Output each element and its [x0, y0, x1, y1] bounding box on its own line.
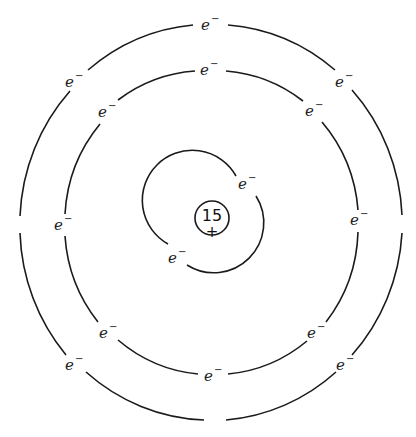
svg-text:−: −	[108, 100, 116, 111]
svg-text:e: e	[204, 367, 213, 385]
electron: e−	[65, 353, 83, 374]
nucleus: 15 +	[195, 201, 229, 241]
svg-text:−: −	[345, 70, 353, 81]
svg-text:−: −	[214, 364, 222, 375]
electron: e−	[54, 213, 72, 234]
svg-text:e: e	[307, 324, 316, 342]
svg-text:e: e	[336, 356, 345, 374]
svg-text:e: e	[200, 61, 209, 79]
electron: e−	[307, 321, 325, 342]
bohr-diagram: 15 + e− e− e− e− e− e− e− e− e− e− e− e−…	[0, 0, 416, 437]
electron: e−	[98, 100, 116, 121]
svg-text:e: e	[54, 216, 63, 234]
svg-text:e: e	[65, 356, 74, 374]
svg-text:−: −	[211, 13, 219, 24]
svg-text:e: e	[305, 102, 314, 120]
svg-text:−: −	[315, 99, 323, 110]
svg-text:−: −	[64, 213, 72, 224]
svg-text:e: e	[201, 16, 210, 34]
electron: e−	[305, 99, 323, 120]
electron: e−	[99, 321, 117, 342]
electron: e−	[65, 70, 83, 91]
svg-text:−: −	[360, 208, 368, 219]
svg-text:−: −	[346, 353, 354, 364]
nucleus-sign: +	[206, 223, 219, 241]
svg-text:−: −	[178, 246, 186, 257]
electron: e−	[335, 70, 353, 91]
svg-text:−: −	[317, 321, 325, 332]
svg-text:−: −	[210, 58, 218, 69]
svg-text:e: e	[350, 211, 359, 229]
svg-text:e: e	[65, 73, 74, 91]
electron: e−	[168, 246, 186, 267]
electron: e−	[204, 364, 222, 385]
electron: e−	[336, 353, 354, 374]
electron: e−	[200, 58, 218, 79]
svg-text:e: e	[98, 103, 107, 121]
svg-text:e: e	[99, 324, 108, 342]
svg-text:−: −	[109, 321, 117, 332]
electron: e−	[238, 172, 256, 193]
electron: e−	[201, 13, 219, 34]
electron: e−	[350, 208, 368, 229]
svg-text:−: −	[75, 353, 83, 364]
svg-text:e: e	[238, 175, 247, 193]
svg-text:−: −	[75, 70, 83, 81]
svg-text:−: −	[248, 172, 256, 183]
svg-text:e: e	[168, 249, 177, 267]
svg-text:e: e	[335, 73, 344, 91]
